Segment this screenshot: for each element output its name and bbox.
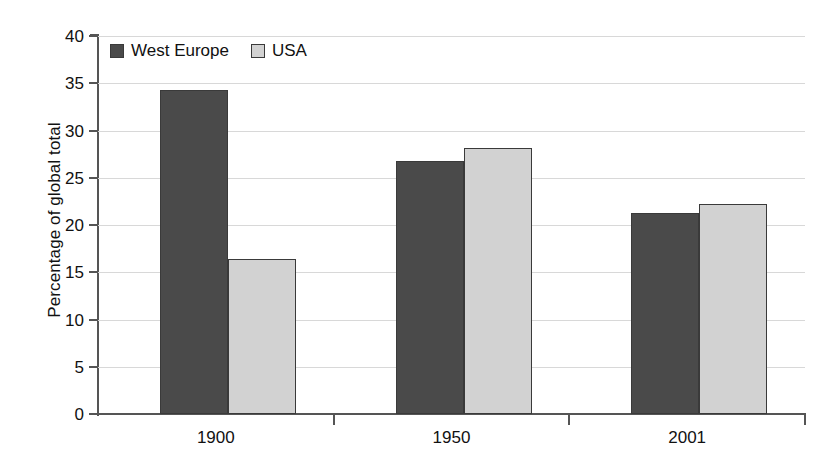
bar-usa-1950	[464, 148, 532, 414]
plot-area	[98, 36, 805, 414]
y-tick-label: 40	[40, 28, 84, 45]
y-tick-label: 5	[40, 359, 84, 376]
bar-chart: Percentage of global total 0510152025303…	[0, 0, 823, 474]
x-tick-mark	[804, 414, 806, 425]
legend-label-west-europe: West Europe	[131, 42, 229, 59]
y-tick-label: 25	[40, 170, 84, 187]
y-tick-label: 20	[40, 217, 84, 234]
x-tick-mark	[333, 414, 335, 425]
y-tick-label: 10	[40, 312, 84, 329]
x-tick-label-2001: 2001	[627, 428, 747, 448]
legend: West Europe USA	[110, 42, 307, 59]
y-tick-label: 15	[40, 264, 84, 281]
bar-west-europe-1950	[396, 161, 464, 414]
x-tick-label-1900: 1900	[156, 428, 276, 448]
bar-west-europe-1900	[160, 90, 228, 414]
bar-usa-1900	[228, 259, 296, 414]
y-tick-label: 0	[40, 406, 84, 423]
x-tick-label-1950: 1950	[392, 428, 512, 448]
legend-item-west-europe: West Europe	[110, 42, 229, 59]
legend-label-usa: USA	[272, 42, 307, 59]
legend-swatch-icon-usa	[251, 44, 265, 58]
x-tick-mark	[568, 414, 570, 425]
legend-item-usa: USA	[251, 42, 307, 59]
y-tick-label: 30	[40, 123, 84, 140]
y-tick-label: 35	[40, 75, 84, 92]
gridline	[98, 36, 805, 37]
bar-west-europe-2001	[631, 213, 699, 414]
gridline	[98, 83, 805, 84]
legend-swatch-icon-west-europe	[110, 44, 124, 58]
bar-usa-2001	[699, 204, 767, 414]
